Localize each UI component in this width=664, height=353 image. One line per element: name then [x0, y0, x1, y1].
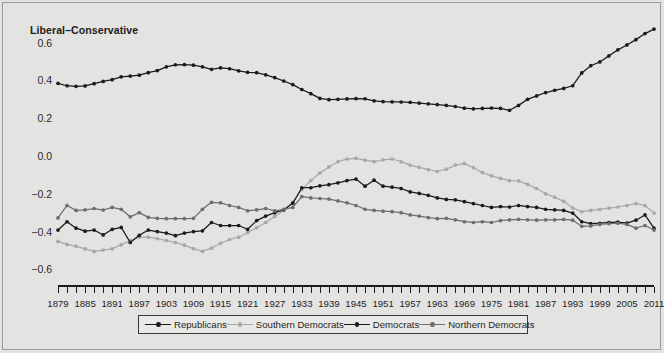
series-northern-democrats [56, 195, 656, 232]
data-point [255, 71, 259, 75]
x-axis-tick [419, 287, 420, 293]
x-axis-tick [248, 287, 249, 293]
data-point [56, 81, 60, 85]
data-point [562, 87, 566, 91]
data-point [165, 239, 169, 243]
data-point [345, 201, 349, 205]
data-point [580, 210, 584, 214]
data-point [92, 82, 96, 86]
legend-item-southern-democrats[interactable]: Southern Democrats [227, 319, 344, 330]
data-point [354, 156, 358, 160]
data-point [155, 237, 159, 241]
data-point [210, 246, 214, 250]
legend-line-swatch [344, 320, 370, 329]
data-point [372, 209, 376, 213]
data-point [517, 217, 521, 221]
data-point [354, 97, 358, 101]
x-axis-tick [293, 287, 294, 293]
data-point [237, 235, 241, 239]
x-axis-tick [139, 287, 140, 293]
data-point [571, 211, 575, 215]
x-axis-tick [365, 287, 366, 293]
y-axis-tick-label: −0.4 [31, 226, 52, 238]
data-point [481, 220, 485, 224]
data-point [571, 206, 575, 210]
x-axis-tick-label: 1933 [291, 298, 312, 309]
data-point [201, 65, 205, 69]
data-point [219, 66, 223, 70]
data-point [463, 220, 467, 224]
x-axis-tick-label: 1987 [535, 298, 556, 309]
x-axis-tick [212, 287, 213, 293]
data-point [553, 88, 557, 92]
data-point [553, 208, 557, 212]
data-point [74, 244, 78, 248]
x-axis-tick-label: 1921 [237, 298, 258, 309]
data-point [201, 207, 205, 211]
data-point [128, 215, 132, 219]
data-point [580, 71, 584, 75]
data-point [137, 211, 141, 215]
x-axis-tick [329, 287, 330, 293]
data-point [408, 101, 412, 105]
data-point [381, 209, 385, 213]
x-axis-tick [555, 287, 556, 293]
x-axis-tick [383, 287, 384, 293]
legend-item-democrats[interactable]: Democrats [344, 319, 419, 330]
x-axis-tick [58, 287, 59, 293]
x-axis-tick [112, 287, 113, 293]
data-point [237, 69, 241, 73]
x-axis-tick-label: 1903 [156, 298, 177, 309]
data-point [345, 97, 349, 101]
x-axis-tick [184, 287, 185, 293]
x-axis-tick [347, 287, 348, 293]
x-axis-tick [464, 287, 465, 293]
data-point [399, 100, 403, 104]
data-point [291, 201, 295, 205]
data-point [508, 218, 512, 222]
data-point [444, 104, 448, 108]
x-axis-tick [491, 287, 492, 293]
x-axis [58, 285, 654, 299]
data-point [508, 179, 512, 183]
data-point [318, 184, 322, 188]
data-point [652, 27, 656, 31]
data-point [128, 74, 132, 78]
data-point [174, 234, 178, 238]
x-axis-tick-label: 1879 [47, 298, 68, 309]
x-axis-tick [76, 287, 77, 293]
data-point [201, 250, 205, 254]
data-point [300, 195, 304, 199]
data-point [83, 208, 87, 212]
x-axis-tick [636, 287, 637, 293]
x-axis-tick [67, 287, 68, 293]
x-axis-tick [230, 287, 231, 293]
x-axis-tick [202, 287, 203, 293]
data-point [137, 73, 141, 77]
data-point [309, 179, 313, 183]
data-point [426, 216, 430, 220]
data-point [625, 204, 629, 208]
data-point [526, 182, 530, 186]
data-point [327, 165, 331, 169]
data-point [408, 190, 412, 194]
data-point [490, 221, 494, 225]
legend-item-republicans[interactable]: Republicans [145, 319, 227, 330]
data-point [65, 204, 69, 208]
x-axis-tick [338, 287, 339, 293]
x-axis-tick [311, 287, 312, 293]
data-point [517, 179, 521, 183]
data-point [408, 213, 412, 217]
series-canvas [58, 20, 654, 292]
data-point [336, 181, 340, 185]
data-point [174, 241, 178, 245]
data-point [101, 80, 105, 84]
x-axis-tick [130, 287, 131, 293]
x-axis-tick-label: 1975 [481, 298, 502, 309]
data-point [589, 209, 593, 213]
x-axis-tick [500, 287, 501, 293]
data-point [318, 197, 322, 201]
data-point [354, 204, 358, 208]
data-point [571, 218, 575, 222]
legend-item-northern-democrats[interactable]: Northern Democrats [419, 319, 534, 330]
